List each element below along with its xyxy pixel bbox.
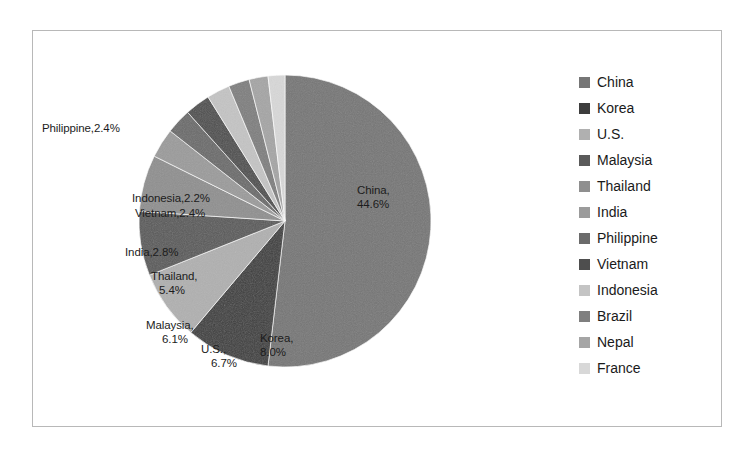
legend-item-india[interactable]: India: [579, 199, 719, 225]
legend-swatch-icon: [579, 103, 590, 114]
slice-label-thailand-value: 5.4%: [159, 284, 185, 298]
legend-item-label: Vietnam: [597, 256, 648, 272]
legend-item-china[interactable]: China: [579, 69, 719, 95]
slice-label-thailand-name: Thailand,: [151, 270, 197, 282]
slice-label-china-name: China,: [357, 184, 390, 196]
legend-item-label: China: [597, 74, 634, 90]
slice-label-thailand: Thailand,5.4%: [151, 270, 197, 297]
pie-slice-china[interactable]: [268, 75, 431, 367]
legend-item-label: Philippine: [597, 230, 658, 246]
legend-swatch-icon: [579, 259, 590, 270]
legend-item-label: U.S.: [597, 126, 624, 142]
legend-item-label: France: [597, 360, 641, 376]
slice-label-china: China,44.6%: [357, 184, 390, 211]
slice-label-korea-name: Korea,: [260, 332, 293, 344]
legend-item-label: Thailand: [597, 178, 651, 194]
chart-legend: ChinaKoreaU.S.MalaysiaThailandIndiaPhili…: [579, 69, 719, 381]
legend-item-france[interactable]: France: [579, 355, 719, 381]
slice-label-malaysia-value: 6.1%: [162, 333, 188, 347]
legend-item-u-s[interactable]: U.S.: [579, 121, 719, 147]
legend-item-label: Malaysia: [597, 152, 652, 168]
legend-swatch-icon: [579, 155, 590, 166]
slice-label-us-name: U.S.,: [201, 343, 226, 355]
legend-item-indonesia[interactable]: Indonesia: [579, 277, 719, 303]
legend-swatch-icon: [579, 181, 590, 192]
legend-item-korea[interactable]: Korea: [579, 95, 719, 121]
legend-item-brazil[interactable]: Brazil: [579, 303, 719, 329]
legend-item-label: Nepal: [597, 334, 634, 350]
legend-item-label: Brazil: [597, 308, 632, 324]
legend-swatch-icon: [579, 129, 590, 140]
legend-swatch-icon: [579, 337, 590, 348]
legend-swatch-icon: [579, 207, 590, 218]
slice-label-india: India,2.8%: [125, 246, 178, 260]
slice-label-malaysia: Malaysia,6.1%: [146, 319, 194, 346]
legend-swatch-icon: [579, 77, 590, 88]
slice-label-us: U.S.,6.7%: [201, 343, 237, 370]
legend-swatch-icon: [579, 311, 590, 322]
slice-label-malaysia-name: Malaysia,: [146, 319, 194, 331]
slice-label-philippine: Philippine,2.4%: [42, 122, 120, 136]
legend-item-label: Korea: [597, 100, 634, 116]
legend-item-nepal[interactable]: Nepal: [579, 329, 719, 355]
legend-swatch-icon: [579, 233, 590, 244]
legend-swatch-icon: [579, 285, 590, 296]
legend-item-malaysia[interactable]: Malaysia: [579, 147, 719, 173]
slice-label-korea: Korea,8.0%: [260, 332, 293, 359]
legend-item-thailand[interactable]: Thailand: [579, 173, 719, 199]
legend-item-philippine[interactable]: Philippine: [579, 225, 719, 251]
chart-frame: China,44.6% Korea,8.0% U.S.,6.7% Malaysi…: [32, 30, 722, 427]
slice-label-vietnam: Vietnam,2.4%: [135, 207, 205, 221]
slice-label-china-value: 44.6%: [357, 198, 389, 210]
plot-area: China,44.6% Korea,8.0% U.S.,6.7% Malaysi…: [33, 31, 721, 426]
legend-item-label: India: [597, 204, 627, 220]
legend-item-vietnam[interactable]: Vietnam: [579, 251, 719, 277]
legend-item-label: Indonesia: [597, 282, 658, 298]
slice-label-us-value: 6.7%: [211, 357, 237, 371]
legend-swatch-icon: [579, 363, 590, 374]
slice-label-indonesia: Indonesia,2.2%: [132, 192, 210, 206]
slice-label-korea-value: 8.0%: [260, 346, 286, 358]
